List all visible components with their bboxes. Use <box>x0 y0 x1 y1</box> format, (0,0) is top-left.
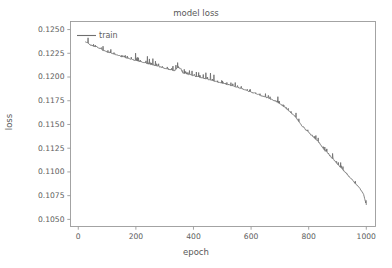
y-tick-label-0.1200: 0.1200 <box>23 72 65 81</box>
y-tick-label-0.1250: 0.1250 <box>23 25 65 34</box>
plot-area <box>0 0 392 268</box>
y-tick-label-0.1150: 0.1150 <box>23 120 65 129</box>
x-tick-label-0: 0 <box>58 232 98 241</box>
axes-frame <box>71 22 376 227</box>
x-tick-label-1000: 1000 <box>346 232 386 241</box>
loss-curve-train <box>85 38 366 205</box>
y-tick-label-0.1075: 0.1075 <box>23 191 65 200</box>
x-tick-label-800: 800 <box>289 232 329 241</box>
x-tick-label-400: 400 <box>173 232 213 241</box>
y-tick-label-0.1225: 0.1225 <box>23 49 65 58</box>
y-tick-label-0.1175: 0.1175 <box>23 96 65 105</box>
y-tick-label-0.1050: 0.1050 <box>23 215 65 224</box>
y-tick-label-0.1125: 0.1125 <box>23 144 65 153</box>
y-tick-label-0.1100: 0.1100 <box>23 167 65 176</box>
x-tick-label-600: 600 <box>231 232 271 241</box>
matplotlib-figure: model loss epoch loss train 020040060080… <box>0 0 392 268</box>
x-tick-label-200: 200 <box>116 232 156 241</box>
